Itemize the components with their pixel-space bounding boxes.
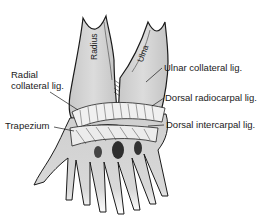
- dorsal-intercarpal-label: Dorsal intercarpal lig.: [166, 119, 255, 130]
- radial-collateral-label-line2: collateral lig.: [11, 80, 64, 91]
- wrist-illustration: [0, 0, 259, 223]
- radial-collateral-label: Radial collateral lig.: [11, 69, 64, 91]
- radius-label: Radius: [89, 34, 99, 60]
- dorsal-radiocarpal-label: Dorsal radiocarpal lig.: [165, 92, 257, 103]
- wrist-ligament-diagram: Radius Ulna Radial collateral lig. Trape…: [0, 0, 259, 223]
- trapezium-label: Trapezium: [5, 120, 50, 131]
- ulnar-collateral-label: Ulnar collateral lig.: [164, 62, 242, 73]
- radial-collateral-label-line1: Radial: [11, 69, 64, 80]
